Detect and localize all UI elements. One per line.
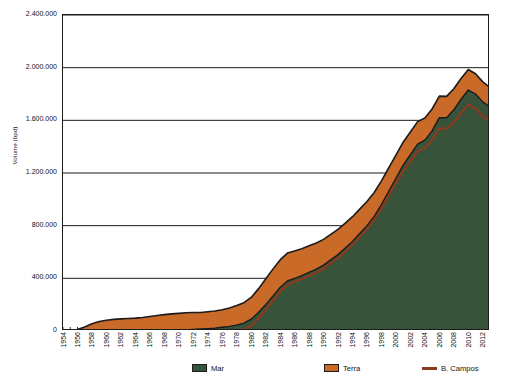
stacked-area-plot xyxy=(63,15,489,330)
legend-swatch-icon xyxy=(192,364,207,372)
y-axis-tick-label: 1.600.000 xyxy=(26,115,57,123)
y-axis-tick-label: 1.200.000 xyxy=(26,168,57,176)
legend-item-mar[interactable]: Mar xyxy=(192,362,224,374)
x-axis-tick-label: 2000 xyxy=(392,332,400,348)
legend-label: B. Campos xyxy=(441,364,479,373)
x-axis-tick-label: 1980 xyxy=(248,332,256,348)
x-axis-tick-label: 1960 xyxy=(103,332,111,348)
legend-label: Mar xyxy=(211,364,224,373)
x-axis-tick-label: 1966 xyxy=(146,332,154,348)
y-axis-tick-labels: 0400.000800.0001.200.0001.600.0002.000.0… xyxy=(0,0,60,381)
x-axis-tick-label: 1992 xyxy=(335,332,343,348)
y-axis-tick-label: 2.000.000 xyxy=(26,63,57,71)
x-axis-tick-label: 1964 xyxy=(132,332,140,348)
x-axis-tick-label: 1998 xyxy=(378,332,386,348)
x-axis-tick-label: 2006 xyxy=(436,332,444,348)
x-axis-tick-label: 1986 xyxy=(291,332,299,348)
x-axis-tick-label: 1956 xyxy=(74,332,82,348)
x-axis-tick-label: 1968 xyxy=(161,332,169,348)
x-axis-tick-label: 1988 xyxy=(306,332,314,348)
x-axis-tick-label: 1984 xyxy=(277,332,285,348)
x-axis-tick-label: 1974 xyxy=(204,332,212,348)
legend-swatch-icon xyxy=(422,367,437,370)
x-axis-tick-label: 1958 xyxy=(88,332,96,348)
x-axis-tick-label: 2010 xyxy=(465,332,473,348)
x-axis-tick-label: 1996 xyxy=(363,332,371,348)
chart-container: Volume (bpd) 0400.000800.0001.200.0001.6… xyxy=(0,0,507,381)
y-axis-tick-label: 400.000 xyxy=(32,273,57,281)
x-axis-tick-label: 1994 xyxy=(349,332,357,348)
y-axis-tick-label: 0 xyxy=(53,326,57,334)
x-axis-tick-label: 1962 xyxy=(117,332,125,348)
x-axis-tick-label: 1970 xyxy=(175,332,183,348)
x-axis-tick-label: 1990 xyxy=(320,332,328,348)
x-axis-tick-label: 1978 xyxy=(233,332,241,348)
legend-label: Terra xyxy=(343,364,360,373)
legend-item-terra[interactable]: Terra xyxy=(324,362,360,374)
x-axis-tick-label: 2004 xyxy=(421,332,429,348)
y-axis-tick-label: 800.000 xyxy=(32,221,57,229)
y-axis-tick-label: 2.400.000 xyxy=(26,10,57,18)
x-axis-tick-label: 2002 xyxy=(407,332,415,348)
legend-item-b-campos[interactable]: B. Campos xyxy=(422,362,479,374)
x-axis-tick-label: 1972 xyxy=(190,332,198,348)
legend-swatch-icon xyxy=(324,364,339,372)
x-axis-tick-label: 1976 xyxy=(219,332,227,348)
x-axis-tick-label: 2008 xyxy=(450,332,458,348)
plot-area xyxy=(62,14,489,330)
x-axis-tick-label: 1982 xyxy=(262,332,270,348)
x-axis-tick-label: 1954 xyxy=(60,332,68,348)
chart-legend: MarTerraB. Campos xyxy=(62,362,489,378)
x-axis-tick-label: 2012 xyxy=(479,332,487,348)
